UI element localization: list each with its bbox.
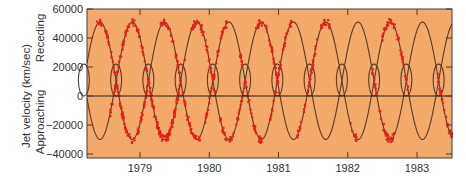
data-point: [384, 28, 386, 30]
data-point: [311, 68, 313, 70]
data-point: [275, 91, 277, 93]
data-point: [222, 27, 224, 29]
data-point: [258, 23, 260, 25]
data-point: [148, 80, 150, 82]
data-point: [250, 112, 252, 114]
data-point: [277, 72, 279, 74]
data-point: [148, 82, 150, 84]
data-point: [221, 129, 223, 131]
data-point: [161, 138, 163, 140]
data-point: [179, 85, 181, 87]
data-point: [394, 23, 396, 25]
data-point: [252, 125, 254, 127]
data-point: [178, 89, 180, 91]
data-point: [284, 36, 286, 38]
data-point: [229, 136, 231, 138]
data-point: [407, 86, 409, 88]
x-tick-label: 1981: [266, 162, 290, 174]
data-point: [171, 121, 173, 123]
data-point: [137, 133, 139, 135]
data-point: [242, 91, 244, 93]
data-point: [217, 55, 219, 57]
data-point: [379, 110, 381, 112]
data-point: [160, 135, 162, 137]
data-point: [287, 30, 289, 32]
data-point: [109, 115, 111, 117]
x-tick-label: 1983: [405, 162, 429, 174]
data-point: [138, 127, 140, 129]
data-point: [195, 23, 197, 25]
data-point: [445, 116, 447, 118]
data-point: [169, 133, 171, 135]
data-point: [272, 58, 274, 60]
data-point: [131, 142, 133, 144]
data-point: [268, 39, 270, 41]
data-point: [222, 30, 224, 32]
data-point: [393, 27, 395, 29]
data-point: [170, 35, 172, 37]
data-point: [122, 45, 124, 47]
data-point: [354, 134, 356, 136]
y-tick-label: 20000: [52, 61, 83, 73]
data-point: [307, 90, 309, 92]
data-point: [115, 87, 117, 89]
y-axis-title: Jet velocity (km/sec): [20, 44, 32, 148]
data-point: [144, 60, 146, 62]
data-point: [437, 77, 439, 79]
data-point: [290, 20, 292, 22]
data-point: [275, 67, 277, 69]
data-point: [108, 44, 110, 46]
data-point: [257, 27, 259, 29]
data-point: [239, 107, 241, 109]
data-point: [192, 132, 194, 134]
data-point: [160, 23, 162, 25]
data-point: [439, 90, 441, 92]
data-point: [120, 108, 122, 110]
data-point: [222, 131, 224, 133]
data-point: [232, 135, 234, 137]
data-point: [208, 102, 210, 104]
data-point: [112, 61, 114, 63]
data-point: [155, 118, 157, 120]
data-point: [210, 90, 212, 92]
data-point: [167, 26, 169, 28]
data-point: [372, 73, 374, 75]
data-point: [245, 86, 247, 88]
data-point: [145, 97, 147, 99]
data-point: [241, 100, 243, 102]
data-point: [140, 116, 142, 118]
data-point: [327, 19, 329, 21]
data-point: [299, 126, 301, 128]
data-point: [398, 38, 400, 40]
data-point: [179, 79, 181, 81]
data-point: [156, 126, 158, 128]
data-point: [141, 112, 143, 114]
data-point: [389, 136, 391, 138]
data-point: [255, 132, 257, 134]
data-point: [386, 21, 388, 23]
data-point: [240, 104, 242, 106]
data-point: [195, 135, 197, 137]
data-point: [129, 136, 131, 138]
data-point: [210, 87, 212, 89]
data-point: [309, 78, 311, 80]
data-point: [160, 132, 162, 134]
data-point: [203, 31, 205, 33]
data-point: [198, 21, 200, 23]
data-point: [99, 19, 101, 21]
data-point: [114, 72, 116, 74]
data-point: [314, 48, 316, 50]
data-point: [245, 82, 247, 84]
data-point: [208, 97, 210, 99]
data-point: [121, 113, 123, 115]
data-point: [166, 133, 168, 135]
data-point: [140, 120, 142, 122]
data-point: [350, 122, 352, 124]
data-point: [138, 36, 140, 38]
data-point: [328, 27, 330, 29]
data-point: [150, 93, 152, 95]
data-point: [143, 104, 145, 106]
y-tick-label: −20000: [46, 119, 83, 131]
data-point: [278, 92, 280, 94]
data-point: [198, 138, 200, 140]
